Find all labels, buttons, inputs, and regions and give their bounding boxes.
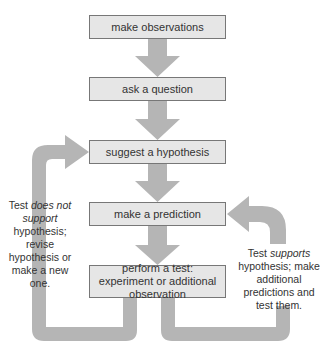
note-text: Test	[9, 199, 31, 211]
step-label: ask a question	[122, 83, 193, 96]
step-label: suggest a hypothesis	[106, 146, 209, 159]
right-loop-note: Test supports hypothesis; make additiona…	[236, 247, 322, 312]
note-text: Test	[248, 247, 270, 259]
arrow-down-3	[135, 164, 180, 202]
step-label: make observations	[111, 21, 203, 34]
step-perform-test: perform a test: experiment or additional…	[89, 265, 226, 298]
step-label: make a prediction	[114, 208, 201, 221]
arrow-down-2	[135, 101, 180, 140]
arrow-down-4	[135, 226, 180, 265]
note-text: hypothesis; make additional predictions …	[238, 260, 320, 311]
step-ask-question: ask a question	[89, 77, 226, 101]
note-emphasis: supports	[270, 247, 310, 259]
step-label: perform a test: experiment or additional…	[94, 262, 221, 301]
step-suggest-hypothesis: suggest a hypothesis	[89, 140, 226, 164]
note-text: hypothesis; revise hypothesis or make a …	[9, 225, 71, 289]
arrow-down-1	[135, 39, 180, 77]
step-make-observations: make observations	[89, 15, 226, 39]
step-make-prediction: make a prediction	[89, 202, 226, 226]
left-loop-note: Test does not support hypothesis; revise…	[4, 199, 76, 290]
support-arrow-right	[227, 196, 286, 244]
